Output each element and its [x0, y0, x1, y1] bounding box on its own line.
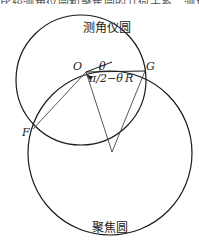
focusing-circle [28, 71, 192, 235]
point-O-label: O [73, 60, 82, 73]
complement-angle-label: π/2−θ [89, 72, 123, 85]
point-G-label: G [146, 60, 155, 73]
radius-label: R [125, 72, 133, 85]
line-F-O [33, 72, 86, 129]
diffraction-geometry-diagram [0, 0, 199, 244]
point-F-label: F [22, 126, 30, 139]
goniometer-circle-label: 测角仪圆 [83, 18, 131, 35]
focusing-circle-label: 聚焦圆 [92, 218, 128, 235]
